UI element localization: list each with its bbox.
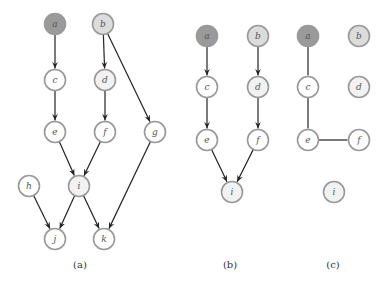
node-e: e: [45, 122, 66, 143]
node-label: k: [101, 234, 106, 244]
node-label: a: [305, 31, 310, 41]
node-h: h: [19, 176, 40, 197]
edge-h-j: [34, 195, 50, 228]
node-label: e: [204, 135, 209, 145]
panel-caption: (c): [326, 259, 340, 270]
node-g: g: [145, 122, 166, 143]
node-label: e: [305, 135, 310, 145]
panel-a: abcdefghijk(a): [19, 14, 166, 271]
node-i: i: [222, 182, 243, 203]
edge-f-i: [84, 141, 100, 175]
edge-i-k: [83, 195, 99, 228]
edge-b-d: [103, 34, 104, 68]
node-e: e: [298, 130, 319, 151]
node-label: a: [52, 19, 57, 29]
node-label: b: [356, 31, 362, 41]
node-label: b: [255, 31, 261, 41]
node-label: h: [26, 181, 32, 191]
edge-i-j: [60, 196, 75, 229]
node-d: d: [349, 77, 370, 98]
panel-caption: (a): [73, 259, 87, 270]
node-d: d: [248, 77, 269, 98]
node-f: f: [95, 122, 116, 143]
node-i: i: [324, 182, 345, 203]
node-label: a: [204, 31, 209, 41]
node-label: g: [152, 127, 158, 137]
node-b: b: [248, 26, 269, 47]
node-label: i: [78, 181, 81, 191]
edge-e-i: [59, 142, 74, 176]
node-c: c: [298, 77, 319, 98]
node-label: i: [333, 187, 336, 197]
node-c: c: [45, 70, 66, 91]
node-label: b: [100, 19, 106, 29]
panel-b: abcdefi(b): [197, 26, 269, 271]
node-f: f: [349, 130, 370, 151]
node-b: b: [349, 26, 370, 47]
node-a: a: [45, 14, 66, 35]
node-label: d: [356, 82, 362, 92]
node-a: a: [197, 26, 218, 47]
node-j: j: [45, 229, 66, 250]
panel-caption: (b): [223, 259, 237, 270]
edge-g-k: [109, 141, 151, 228]
node-k: k: [94, 229, 115, 250]
node-c: c: [197, 77, 218, 98]
node-label: d: [102, 75, 108, 85]
node-a: a: [298, 26, 319, 47]
node-label: c: [204, 82, 209, 92]
node-label: c: [52, 75, 57, 85]
node-label: i: [231, 187, 234, 197]
node-b: b: [93, 14, 114, 35]
node-i: i: [69, 176, 90, 197]
node-label: e: [52, 127, 57, 137]
graph-diagram: abcdefghijk(a)abcdefi(b)abcdefi(c): [0, 0, 382, 285]
node-label: c: [305, 82, 310, 92]
edge-e-i: [212, 149, 227, 181]
node-label: d: [255, 82, 261, 92]
node-f: f: [248, 130, 269, 151]
panel-c: abcdefi(c): [298, 26, 370, 271]
node-e: e: [197, 130, 218, 151]
node-d: d: [95, 70, 116, 91]
edge-f-i: [237, 149, 253, 181]
